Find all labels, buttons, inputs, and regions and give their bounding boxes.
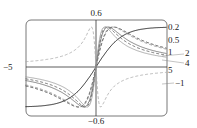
curve-label-neg1: −1 — [175, 78, 185, 88]
leader-4 — [162, 60, 184, 63]
plot-frame — [26, 20, 167, 116]
y-min-label: −0.6 — [88, 116, 105, 126]
curve-label-2: 2 — [185, 48, 190, 58]
chart: 0.6 −0.6 −5 5 0.2 0.5 1 2 4 −1 — [0, 0, 197, 128]
curve-label-4: 4 — [185, 58, 190, 68]
x-min-label: −5 — [3, 62, 13, 72]
x-max-label: 5 — [168, 65, 173, 75]
curve-label-0.2: 0.2 — [168, 22, 179, 32]
leader-neg1 — [162, 83, 174, 84]
y-max-label: 0.6 — [90, 8, 102, 18]
curve-label-0.5: 0.5 — [168, 35, 180, 45]
leader-2 — [162, 54, 184, 56]
